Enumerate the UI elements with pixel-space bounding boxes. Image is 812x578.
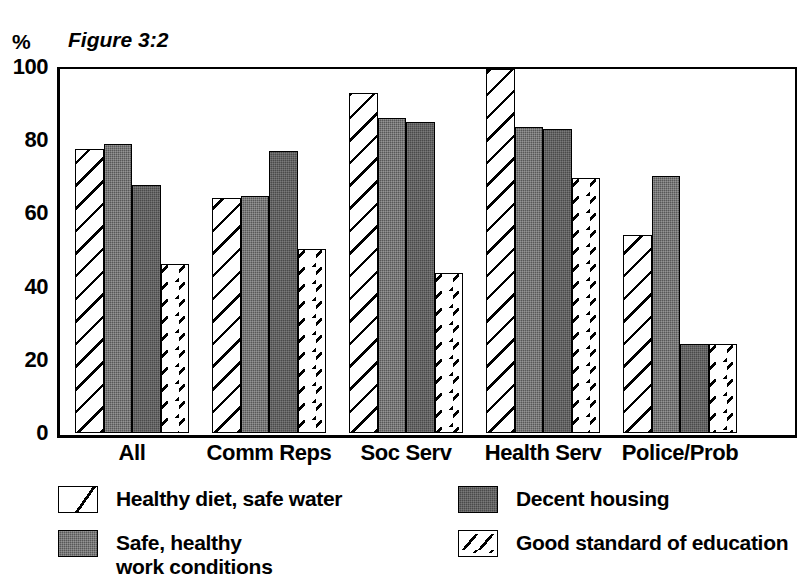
- legend-label-education: Good standard of education: [516, 531, 788, 555]
- x-label-soc-serv: Soc Serv: [361, 440, 452, 466]
- bar-police-prob-dashed-diagonal: [709, 344, 738, 433]
- y-axis-tick-labels: 100 80 60 40 20 0: [0, 67, 48, 433]
- y-tick-20: 20: [25, 347, 48, 373]
- figure-title: Figure 3:2: [68, 28, 168, 52]
- y-tick-0: 0: [36, 420, 48, 446]
- bar-soc-serv-dashed-diagonal: [435, 273, 464, 433]
- bar-soc-serv-dark-grey-stipple: [406, 122, 435, 433]
- bar-comm-reps-dark-grey-stipple: [269, 151, 298, 433]
- legend-item-education: Good standard of education: [458, 530, 788, 557]
- bar-health-serv-hatch: [486, 69, 515, 433]
- y-tick-40: 40: [25, 274, 48, 300]
- x-label-all: All: [119, 440, 146, 466]
- x-label-police-prob: Police/Prob: [622, 440, 739, 466]
- x-label-comm-reps: Comm Reps: [207, 440, 332, 466]
- bars-layer: [60, 69, 792, 433]
- bar-health-serv-grey-stipple: [515, 127, 544, 433]
- bar-comm-reps-dashed-diagonal: [298, 249, 327, 433]
- legend-item-healthy-diet: Healthy diet, safe water: [58, 486, 342, 513]
- bar-health-serv-dark-grey-stipple: [543, 129, 572, 433]
- bar-health-serv-dashed-diagonal: [572, 178, 601, 433]
- x-label-health-serv: Health Serv: [485, 440, 602, 466]
- bar-police-prob-grey-stipple: [652, 176, 681, 433]
- bar-police-prob-hatch: [623, 235, 652, 433]
- grey-stipple-swatch-icon: [58, 530, 98, 557]
- y-axis-unit-label: %: [12, 30, 30, 54]
- bar-all-dark-grey-stipple: [132, 185, 161, 433]
- bar-comm-reps-hatch: [212, 198, 241, 433]
- bar-police-prob-dark-grey-stipple: [680, 344, 709, 433]
- legend-label-work-conditions: Safe, healthy work conditions: [116, 531, 273, 578]
- x-axis-category-labels: AllComm RepsSoc ServHealth ServPolice/Pr…: [57, 440, 792, 472]
- bar-soc-serv-grey-stipple: [378, 118, 407, 433]
- grey-swatch-icon: [458, 486, 498, 513]
- legend-item-work-conditions: Safe, healthy work conditions: [58, 530, 273, 578]
- bar-soc-serv-hatch: [349, 93, 378, 433]
- legend-label-healthy-diet: Healthy diet, safe water: [116, 487, 342, 511]
- legend-item-decent-housing: Decent housing: [458, 486, 669, 513]
- dash-swatch-icon: [458, 530, 498, 557]
- y-tick-60: 60: [25, 200, 48, 226]
- bar-comm-reps-grey-stipple: [241, 196, 270, 433]
- bar-all-grey-stipple: [104, 144, 133, 433]
- y-tick-80: 80: [25, 127, 48, 153]
- bar-all-hatch: [75, 149, 104, 433]
- chart-legend: Healthy diet, safe water Decent housing …: [58, 486, 808, 568]
- y-tick-100: 100: [13, 54, 48, 80]
- legend-label-decent-housing: Decent housing: [516, 487, 669, 511]
- hatch-swatch-icon: [58, 486, 98, 513]
- bar-all-dashed-diagonal: [161, 264, 190, 433]
